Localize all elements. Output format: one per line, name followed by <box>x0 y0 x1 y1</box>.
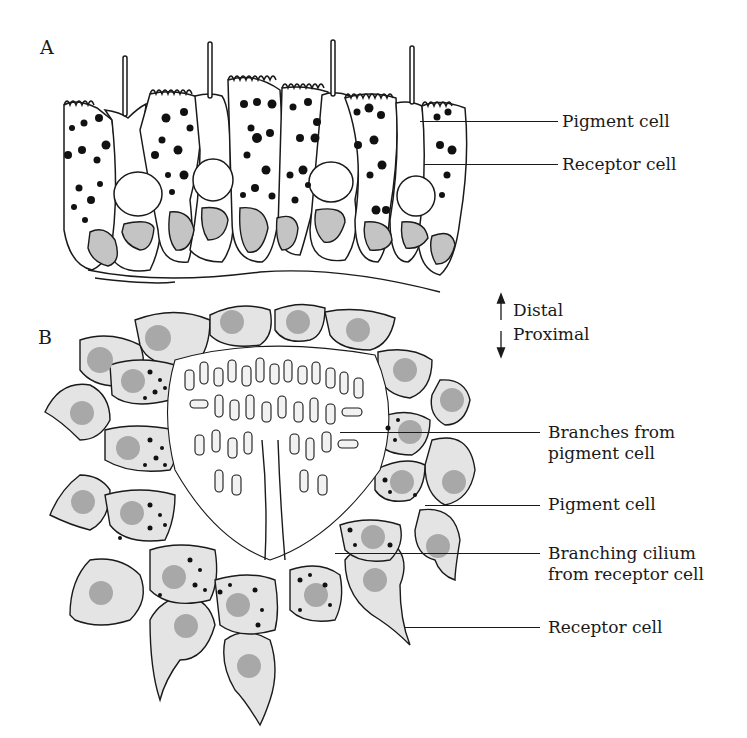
label-distal: Distal <box>513 300 563 321</box>
label-receptor-cell-a: Receptor cell <box>562 154 676 175</box>
label-pigment-cell-b: Pigment cell <box>548 494 656 515</box>
leader-pigment-cell-a <box>420 121 558 122</box>
leader-pigment-cell-b <box>425 505 540 506</box>
label-receptor-cell-b: Receptor cell <box>548 617 662 638</box>
leader-receptor-cell-a <box>424 164 558 165</box>
label-branching-cilium: Branching cilium from receptor cell <box>548 543 704 585</box>
leader-branches-from-pigment-cell <box>340 432 540 433</box>
label-branches-from-pigment-cell: Branches from pigment cell <box>548 422 675 464</box>
leader-receptor-cell-b <box>405 627 540 628</box>
panel-b-letter: B <box>38 326 52 348</box>
label-pigment-cell-a: Pigment cell <box>562 111 670 132</box>
label-proximal: Proximal <box>513 324 590 345</box>
leader-branching-cilium <box>335 553 540 554</box>
